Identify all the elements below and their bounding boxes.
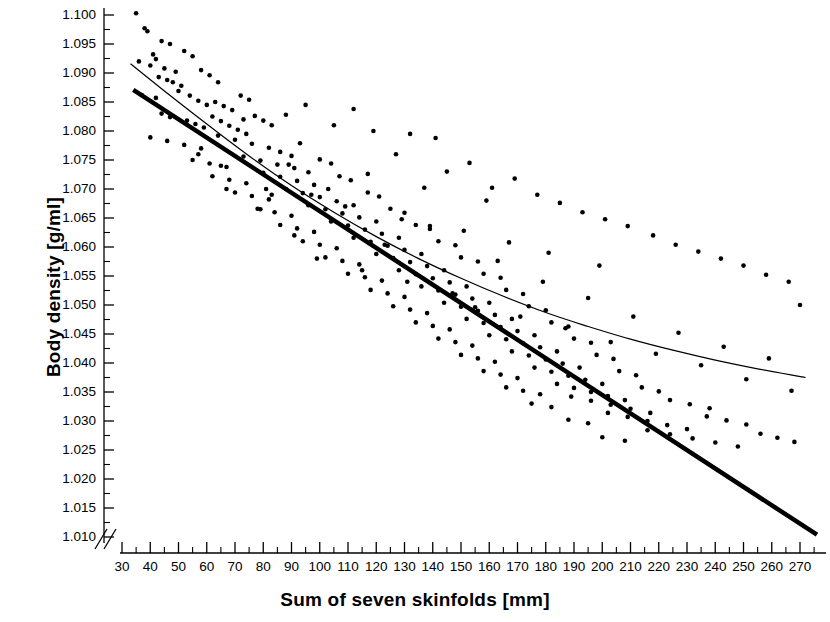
scatter-point	[628, 407, 633, 412]
scatter-point	[323, 207, 328, 212]
scatter-point	[216, 80, 221, 85]
scatter-point	[388, 206, 393, 211]
scatter-point	[250, 142, 255, 147]
scatter-point	[786, 280, 791, 285]
scatter-point	[202, 125, 207, 130]
scatter-point	[216, 133, 221, 138]
scatter-point	[631, 314, 636, 319]
scatter-point	[377, 194, 382, 199]
scatter-point	[343, 204, 348, 209]
scatter-point	[600, 382, 605, 387]
scatter-point	[213, 100, 218, 105]
scatter-point	[498, 325, 503, 330]
scatter-point	[431, 276, 436, 281]
scatter-point	[193, 122, 198, 127]
scatter-point	[586, 421, 591, 426]
scatter-plot-svg	[0, 0, 830, 622]
scatter-point	[422, 186, 427, 191]
linear-regression-path	[133, 90, 817, 535]
scatter-point	[425, 311, 430, 316]
scatter-point	[250, 194, 255, 199]
scatter-point	[351, 107, 356, 112]
scatter-point	[188, 93, 193, 98]
scatter-point	[521, 341, 526, 346]
scatter-point	[227, 124, 232, 129]
scatter-point	[521, 292, 526, 297]
scatter-point	[332, 123, 337, 128]
scatter-point	[654, 351, 659, 356]
scatter-point	[555, 349, 560, 354]
scatter-point	[724, 418, 729, 423]
scatter-point	[253, 114, 258, 119]
scatter-point	[357, 215, 362, 220]
scatter-point	[165, 78, 170, 83]
scatter-point	[450, 291, 455, 296]
scatter-point	[498, 372, 503, 377]
scatter-point	[298, 141, 303, 146]
scatter-point	[233, 137, 238, 142]
scatter-point	[233, 190, 238, 195]
scatter-point	[459, 255, 464, 260]
scatter-point	[210, 114, 215, 119]
scatter-point	[145, 29, 150, 34]
scatter-point	[606, 394, 611, 399]
scatter-point	[487, 333, 492, 338]
scatter-point	[399, 217, 404, 222]
scatter-point	[504, 288, 509, 293]
scatter-point	[278, 150, 283, 155]
scatter-point	[137, 59, 142, 64]
scatter-point	[651, 233, 656, 238]
scatter-point	[258, 158, 263, 163]
scatter-point	[382, 242, 387, 247]
axis-break-symbol	[95, 529, 116, 549]
scatter-point	[445, 169, 450, 174]
scatter-point	[515, 376, 520, 381]
scatter-point	[168, 115, 173, 120]
scatter-point	[490, 186, 495, 191]
scatter-point	[515, 329, 520, 334]
scatter-point	[481, 271, 486, 276]
scatter-point	[295, 226, 300, 231]
scatter-point	[414, 272, 419, 277]
scatter-point	[179, 84, 184, 89]
scatter-point	[529, 401, 534, 406]
scatter-point	[597, 263, 602, 268]
scatter-point	[527, 353, 532, 358]
scatter-point	[363, 227, 368, 232]
scatter-point	[207, 73, 212, 78]
scatter-point	[360, 268, 365, 273]
scatter-point	[397, 268, 402, 273]
scatter-point	[569, 394, 574, 399]
scatter-point	[589, 390, 594, 395]
scatter-point	[586, 296, 591, 301]
scatter-point	[487, 300, 492, 305]
scatter-point	[484, 198, 489, 203]
scatter-point	[269, 193, 274, 198]
scatter-point	[334, 199, 339, 204]
scatter-point	[346, 223, 351, 228]
scatter-point	[159, 39, 164, 44]
scatter-point	[397, 235, 402, 240]
scatter-point	[462, 229, 467, 234]
scatter-point	[476, 259, 481, 264]
scatter-point	[286, 162, 291, 167]
scatter-point	[414, 320, 419, 325]
scatter-point	[549, 405, 554, 410]
scatter-point	[467, 161, 472, 166]
scatter-point	[603, 217, 608, 222]
scatter-point	[767, 356, 772, 361]
scatter-point	[405, 280, 410, 285]
scatter-point	[182, 143, 187, 148]
scatter-point	[244, 132, 249, 137]
scatter-point	[447, 327, 452, 332]
x-tick-label: 270	[780, 559, 820, 574]
scatter-point	[140, 93, 145, 98]
scatter-point	[340, 259, 345, 264]
scatter-point	[385, 291, 390, 296]
scatter-point	[236, 128, 241, 133]
scatter-point	[532, 333, 537, 338]
scatter-point	[566, 418, 571, 423]
scatter-point	[374, 219, 379, 224]
scatter-point	[156, 75, 161, 80]
scatter-point	[572, 386, 577, 391]
